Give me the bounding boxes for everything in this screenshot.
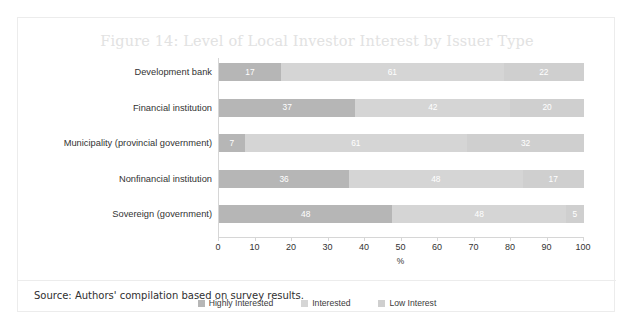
- x-tick-label: 90: [532, 242, 562, 252]
- x-tick-mark: [364, 238, 365, 241]
- x-tick-label: 80: [495, 242, 525, 252]
- x-tick-label: 40: [349, 242, 379, 252]
- bar-value-label: 32: [521, 139, 530, 147]
- bar-row[interactable]: 374220: [219, 99, 584, 117]
- x-tick-mark: [218, 238, 219, 241]
- bar-segment[interactable]: 37: [219, 99, 355, 117]
- bar-segment[interactable]: 61: [281, 63, 504, 81]
- bar-value-label: 17: [549, 175, 558, 183]
- bar-segment[interactable]: 36: [219, 170, 349, 188]
- legend-label: Low Interest: [389, 298, 436, 308]
- bars-region: 1761223742207613236481748485: [218, 58, 584, 238]
- legend-item[interactable]: Interested: [301, 298, 350, 308]
- bar-row[interactable]: 176122: [219, 63, 584, 81]
- bar-row[interactable]: 48485: [219, 205, 584, 223]
- x-tick-mark: [255, 238, 256, 241]
- x-tick-label: 30: [313, 242, 343, 252]
- x-tick-mark: [401, 238, 402, 241]
- bar-value-label: 61: [388, 68, 397, 76]
- bar-value-label: 20: [542, 103, 551, 111]
- x-axis: 0102030405060708090100: [218, 238, 583, 258]
- bar-value-label: 37: [283, 103, 292, 111]
- x-tick-label: 0: [203, 242, 233, 252]
- x-tick-label: 20: [276, 242, 306, 252]
- bar-segment[interactable]: 32: [467, 134, 584, 152]
- bar-segment[interactable]: 17: [219, 63, 281, 81]
- x-tick-label: 60: [422, 242, 452, 252]
- figure-title: Figure 14: Level of Local Investor Inter…: [18, 33, 616, 49]
- x-tick-mark: [291, 238, 292, 241]
- chart-plot-area: Development bankFinancial institutionMun…: [18, 58, 616, 258]
- bar-value-label: 48: [475, 210, 484, 218]
- bar-value-label: 5: [573, 210, 578, 218]
- legend-swatch-icon: [378, 300, 385, 307]
- x-tick-mark: [474, 238, 475, 241]
- bar-value-label: 22: [539, 68, 548, 76]
- x-axis-title: %: [218, 256, 583, 266]
- x-tick-label: 50: [386, 242, 416, 252]
- bar-value-label: 48: [301, 210, 310, 218]
- category-label: Nonfinancial institution: [18, 174, 212, 185]
- bar-segment[interactable]: 48: [219, 205, 392, 223]
- x-tick-label: 70: [459, 242, 489, 252]
- figure-container: Figure 14: Level of Local Investor Inter…: [17, 17, 615, 312]
- bar-segment[interactable]: 17: [523, 170, 584, 188]
- bar-row[interactable]: 364817: [219, 170, 584, 188]
- source-divider: [18, 280, 616, 281]
- bar-segment[interactable]: 48: [392, 205, 565, 223]
- x-tick-mark: [547, 238, 548, 241]
- category-label: Development bank: [18, 67, 212, 78]
- category-label: Sovereign (government): [18, 209, 212, 220]
- bar-value-label: 42: [428, 103, 437, 111]
- bar-segment[interactable]: 5: [566, 205, 584, 223]
- x-tick-label: 10: [240, 242, 270, 252]
- bar-value-label: 7: [229, 139, 234, 147]
- bar-segment[interactable]: 61: [245, 134, 468, 152]
- category-label: Financial institution: [18, 103, 212, 114]
- bar-segment[interactable]: 42: [355, 99, 510, 117]
- bar-row[interactable]: 76132: [219, 134, 584, 152]
- bar-value-label: 61: [351, 139, 360, 147]
- bar-segment[interactable]: 7: [219, 134, 245, 152]
- bar-value-label: 36: [279, 175, 288, 183]
- x-tick-mark: [583, 238, 584, 241]
- legend-label: Interested: [312, 298, 350, 308]
- bar-segment[interactable]: 22: [504, 63, 584, 81]
- x-tick-mark: [437, 238, 438, 241]
- category-axis: Development bankFinancial institutionMun…: [18, 58, 218, 237]
- legend-item[interactable]: Low Interest: [378, 298, 436, 308]
- category-label: Municipality (provincial government): [18, 138, 212, 149]
- x-tick-label: 100: [568, 242, 598, 252]
- bar-segment[interactable]: 48: [349, 170, 522, 188]
- bar-value-label: 17: [245, 68, 254, 76]
- bar-value-label: 48: [431, 175, 440, 183]
- x-tick-mark: [510, 238, 511, 241]
- source-note: Source: Authors' compilation based on su…: [34, 290, 304, 301]
- bar-segment[interactable]: 20: [510, 99, 584, 117]
- x-tick-mark: [328, 238, 329, 241]
